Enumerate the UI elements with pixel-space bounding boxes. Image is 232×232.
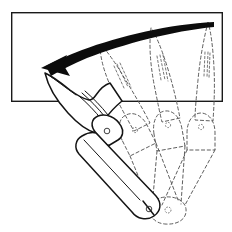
ghost-bolster-2 [154,111,185,151]
knife-rotation-diagram: Folding pocket knife blade rotation diag… [0,0,232,232]
ghost-pivot-pin [165,207,171,213]
ghost-bolster-pin-3 [198,124,203,129]
ghost-bolster-1 [119,114,156,156]
figure-canvas: Folding pocket knife blade rotation diag… [0,0,232,232]
ghost-bolster-pin-2 [165,122,170,127]
ghost-bolster-3 [187,113,215,150]
